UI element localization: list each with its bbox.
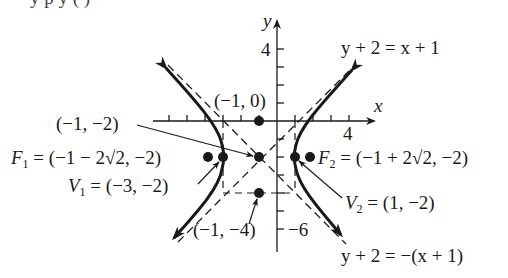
- x-tick-4-label: 4: [343, 123, 353, 144]
- point-top-label: (−1, 0): [214, 90, 266, 112]
- x-axis-label: x: [373, 95, 383, 116]
- vertex-1-label: V1 = (−3, −2): [68, 175, 168, 199]
- point-center: [254, 152, 264, 162]
- focus-1-label: F1 = (−1 − 2√2, −2): [10, 147, 161, 171]
- y-tick-neg6-label: −6: [288, 219, 308, 240]
- hyperbola-diagram: y p y ( ): [0, 0, 508, 278]
- point-f1: [203, 152, 213, 162]
- point-bottom-label: (−1, −4): [193, 219, 256, 241]
- vertex-2-label: V2 = (1, −2): [345, 192, 435, 216]
- point-v2: [290, 152, 300, 162]
- asymptote-negative-label: y + 2 = −(x + 1): [341, 245, 463, 267]
- point-f2: [305, 152, 315, 162]
- y-axis-label: y: [261, 10, 272, 31]
- point-center-label: (−1, −2): [56, 113, 119, 135]
- focus-2-label: F2 = (−1 + 2√2, −2): [317, 147, 468, 171]
- points: [203, 116, 315, 198]
- point-bottom: [254, 188, 264, 198]
- clipped-caption-text: y p y ( ): [30, 0, 90, 9]
- leader-v1: [198, 162, 219, 184]
- point-top: [254, 116, 264, 126]
- y-tick-4-label: 4: [261, 39, 271, 60]
- point-v1: [218, 152, 228, 162]
- asymptote-positive-label: y + 2 = x + 1: [341, 37, 440, 58]
